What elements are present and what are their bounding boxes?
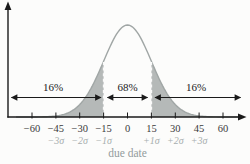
chart-canvas: 16% 68% 16% −60 −45 −30 −15 0 15 30 45 6…: [0, 0, 250, 164]
sigma-label: +2σ: [167, 135, 185, 146]
x-axis-tick-labels: −60 −45 −30 −15 0 15 30 45 60: [24, 123, 228, 134]
sigma-label: +3σ: [191, 135, 209, 146]
sigma-label: +1σ: [143, 135, 161, 146]
y-axis-arrowhead-icon: [5, 2, 12, 11]
center-region-label: 68%: [117, 81, 137, 93]
x-tick-label: −60: [24, 123, 40, 134]
bell-curve: [16, 25, 239, 117]
x-tick-label: −15: [95, 123, 111, 134]
x-axis-title: due date: [108, 147, 147, 159]
sigma-label: −1σ: [95, 135, 113, 146]
x-tick-label: 0: [125, 123, 130, 134]
x-tick-label: 30: [170, 123, 181, 134]
sigma-label: −3σ: [48, 135, 66, 146]
normal-distribution-figure: 16% 68% 16% −60 −45 −30 −15 0 15 30 45 6…: [0, 0, 250, 164]
x-tick-label: 45: [194, 123, 205, 134]
x-tick-label: −45: [48, 123, 64, 134]
right-region-label: 16%: [186, 81, 206, 93]
sigma-tick-labels: −3σ −2σ −1σ +1σ +2σ +3σ: [48, 135, 209, 146]
x-tick-label: −30: [71, 123, 87, 134]
x-tick-label: 60: [218, 123, 229, 134]
x-axis-arrowhead-icon: [238, 114, 247, 121]
x-tick-label: 15: [146, 123, 157, 134]
sigma-label: −2σ: [71, 135, 89, 146]
left-region-label: 16%: [43, 81, 63, 93]
